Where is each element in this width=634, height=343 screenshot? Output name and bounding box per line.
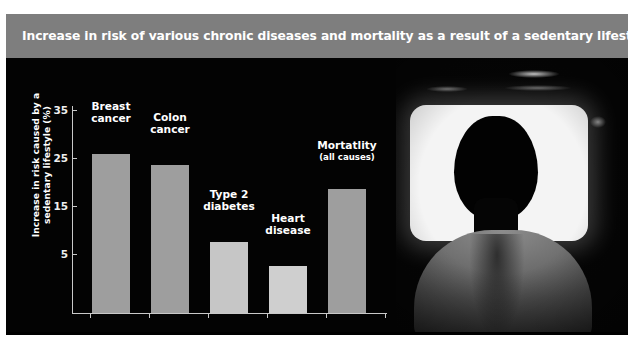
x-tick-mark-3 — [208, 314, 209, 318]
bar-label-breast-cancer-line1: Breast — [91, 100, 130, 112]
wall-light-glow-icon — [590, 116, 606, 128]
canvas-bottom-edge — [6, 332, 628, 335]
ceiling-light-glow-left-icon — [426, 86, 468, 92]
bar-label-mortality-sub: (all causes) — [306, 152, 388, 162]
y-tick-mark-15 — [73, 206, 77, 207]
y-tick-label-5: 5 — [44, 248, 68, 260]
chart-title-band: Increase in risk of various chronic dise… — [6, 14, 628, 58]
bar-label-type-2-diabetes: Type 2 diabetes — [195, 189, 263, 212]
x-tick-mark-6 — [385, 314, 386, 318]
bar-label-heart-disease-line2: disease — [265, 224, 310, 236]
photo-tv-viewer — [396, 58, 628, 335]
figure: Increase in risk of various chronic dise… — [0, 0, 634, 343]
bar-mortality[interactable] — [328, 189, 366, 313]
y-tick-mark-25 — [73, 158, 77, 159]
bar-type-2-diabetes[interactable] — [210, 242, 248, 313]
x-axis-line — [72, 313, 387, 314]
bar-breast-cancer[interactable] — [92, 154, 130, 313]
bar-label-colon-cancer: Colon cancer — [138, 112, 202, 135]
page-title: Increase in risk of various chronic dise… — [22, 29, 634, 43]
bar-label-heart-disease: Heart disease — [256, 213, 320, 236]
x-tick-mark-2 — [149, 314, 150, 318]
y-tick-mark-35 — [73, 110, 77, 111]
bar-label-breast-cancer: Breast cancer — [79, 101, 143, 124]
bar-label-mortality-line1: Mortatlity — [317, 139, 377, 151]
ceiling-light-glow-icon — [508, 70, 560, 78]
bar-label-mortality: Mortatlity (all causes) — [306, 140, 388, 162]
y-axis-line — [72, 106, 73, 314]
x-tick-mark-5 — [326, 314, 327, 318]
person-spine-shadow — [470, 234, 524, 335]
bar-heart-disease[interactable] — [269, 266, 307, 313]
y-tick-label-15: 15 — [44, 200, 68, 212]
x-tick-mark-4 — [267, 314, 268, 318]
bar-label-colon-cancer-line1: Colon — [153, 111, 187, 123]
y-tick-mark-5 — [73, 254, 77, 255]
y-tick-label-25: 25 — [44, 152, 68, 164]
chart-canvas: Increase in risk caused by a sedentary l… — [6, 58, 628, 335]
bar-label-heart-disease-line1: Heart — [271, 212, 305, 224]
bar-label-type-2-diabetes-line1: Type 2 — [210, 188, 249, 200]
bar-colon-cancer[interactable] — [151, 165, 189, 313]
ceiling-light-glow-right-icon — [504, 85, 572, 91]
x-tick-mark-1 — [90, 314, 91, 318]
bar-label-breast-cancer-line2: cancer — [91, 112, 131, 124]
y-tick-label-35: 35 — [44, 104, 68, 116]
bar-label-type-2-diabetes-line2: diabetes — [203, 200, 255, 212]
bar-chart-plot: Increase in risk caused by a sedentary l… — [6, 58, 396, 335]
bar-label-colon-cancer-line2: cancer — [150, 123, 190, 135]
